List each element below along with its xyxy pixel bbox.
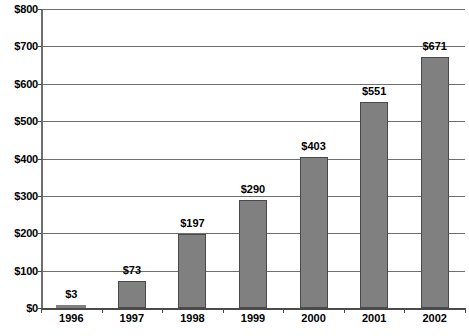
x-tick-mark [41, 308, 42, 313]
x-tick-mark [344, 308, 345, 313]
y-tick-label: $500 [2, 116, 38, 127]
bar[interactable] [178, 234, 206, 308]
y-tick-mark [36, 233, 42, 234]
y-tick-mark [36, 159, 42, 160]
x-tick-label: 1997 [120, 313, 144, 324]
x-axis-labels: 1996199719981999200020012002 [41, 313, 465, 333]
bar-chart: $0$100$200$300$400$500$600$700$800 $3$73… [0, 0, 469, 336]
bar-value-label: $73 [123, 265, 141, 276]
y-tick-label: $0 [2, 303, 38, 314]
bar[interactable] [239, 200, 267, 308]
plot-area: $3$73$197$290$403$551$671 [41, 9, 465, 308]
bar-value-label: $671 [422, 41, 446, 52]
x-tick-label: 1996 [59, 313, 83, 324]
x-tick-mark [162, 308, 163, 313]
x-tick-label: 1998 [180, 313, 204, 324]
bar-slot: $671 [404, 9, 465, 308]
y-tick-label: $600 [2, 79, 38, 90]
x-tick-mark [404, 308, 405, 313]
y-tick-mark [36, 196, 42, 197]
bar[interactable] [56, 305, 86, 308]
bar-value-label: $3 [65, 289, 77, 300]
bar-value-label: $290 [241, 184, 265, 195]
y-tick-label: $800 [2, 4, 38, 15]
y-tick-label: $200 [2, 228, 38, 239]
x-tick-label: 2002 [422, 313, 446, 324]
bar[interactable] [360, 102, 388, 308]
bar-slot: $551 [344, 9, 405, 308]
y-tick-mark [36, 9, 42, 10]
y-tick-mark [36, 121, 42, 122]
x-tick-mark [102, 308, 103, 313]
bar[interactable] [421, 57, 449, 308]
y-tick-label: $300 [2, 191, 38, 202]
y-tick-mark [36, 84, 42, 85]
bar-slot: $3 [41, 9, 102, 308]
y-tick-label: $400 [2, 154, 38, 165]
bar-value-label: $403 [301, 141, 325, 152]
bar-slot: $403 [283, 9, 344, 308]
x-tick-label: 1999 [241, 313, 265, 324]
bar-value-label: $551 [362, 86, 386, 97]
x-tick-mark [223, 308, 224, 313]
bar-value-label: $197 [180, 218, 204, 229]
x-tick-label: 2001 [362, 313, 386, 324]
bar[interactable] [118, 281, 146, 308]
x-tick-label: 2000 [301, 313, 325, 324]
bar[interactable] [300, 157, 328, 308]
y-tick-mark [36, 46, 42, 47]
x-tick-mark [465, 308, 466, 313]
y-tick-label: $100 [2, 266, 38, 277]
bar-slot: $290 [223, 9, 284, 308]
axis-baseline [41, 308, 465, 310]
y-axis-labels: $0$100$200$300$400$500$600$700$800 [0, 0, 38, 336]
bar-slot: $197 [162, 9, 223, 308]
bar-slot: $73 [102, 9, 163, 308]
y-tick-label: $700 [2, 41, 38, 52]
x-tick-mark [283, 308, 284, 313]
y-tick-mark [36, 271, 42, 272]
